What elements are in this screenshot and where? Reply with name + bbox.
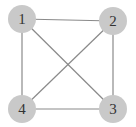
node-2-label: 2 [109,13,117,29]
node-4: 4 [8,95,36,123]
node-2: 2 [99,7,127,35]
graph-diagram: 1 2 3 4 [0,0,136,127]
edges [22,19,113,109]
node-4-label: 4 [18,101,26,117]
node-3: 3 [99,95,127,123]
node-3-label: 3 [109,101,117,117]
node-1: 1 [8,5,36,33]
node-1-label: 1 [18,11,26,27]
